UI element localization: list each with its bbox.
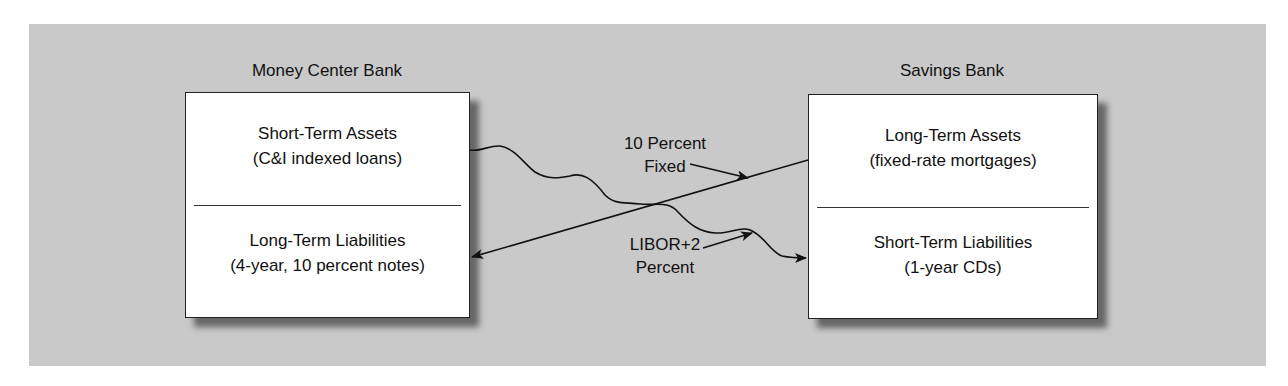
flow-arrows [0,0,1288,386]
libor-payment-arrow [470,146,806,258]
fixed-label-pointer-arrow [690,164,748,178]
fixed-payment-arrow [472,160,808,257]
libor-label-pointer-arrow [703,233,752,248]
